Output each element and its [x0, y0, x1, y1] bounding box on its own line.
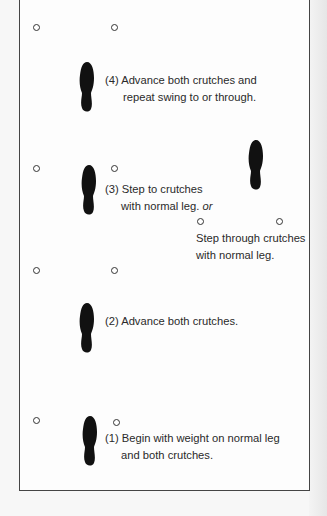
crutch-marker	[111, 165, 118, 172]
crutch-marker	[33, 267, 40, 274]
crutch-marker	[33, 417, 40, 424]
step-1-label: (1) Begin with weight on normal leg and …	[105, 430, 280, 464]
step-4-line2: repeat swing to or through.	[105, 89, 257, 106]
crutch-marker	[197, 218, 204, 225]
crutch-marker	[111, 24, 118, 31]
crutch-marker	[113, 419, 120, 426]
page-edge-shadow	[309, 0, 327, 516]
footprint-icon	[79, 303, 95, 353]
footprint-icon	[81, 165, 97, 215]
crutch-marker	[33, 24, 40, 31]
footprint-icon	[82, 416, 98, 466]
crutch-marker	[276, 218, 283, 225]
step-2-line1: (2) Advance both crutches.	[105, 315, 238, 327]
crutch-marker	[33, 165, 40, 172]
step-3b-label: Step through crutches with normal leg.	[196, 230, 305, 264]
step-2-label: (2) Advance both crutches.	[105, 313, 238, 330]
step-4-label: (4) Advance both crutches and repeat swi…	[105, 72, 257, 106]
step-3b-line2: with normal leg.	[196, 247, 305, 264]
crutch-marker	[111, 267, 118, 274]
step-1-line2: and both crutches.	[105, 447, 280, 464]
step-3-or: or	[202, 200, 212, 212]
step-3-line2: with normal leg.	[121, 200, 199, 212]
step-4-line1: (4) Advance both crutches and	[105, 74, 257, 86]
footprint-icon	[248, 140, 264, 190]
step-3-line1: (3) Step to crutches	[105, 183, 203, 195]
footprint-icon	[79, 62, 95, 112]
step-1-line1: (1) Begin with weight on normal leg	[105, 432, 280, 444]
step-3-label: (3) Step to crutches with normal leg. or	[105, 181, 212, 215]
step-3b-line1: Step through crutches	[196, 232, 305, 244]
